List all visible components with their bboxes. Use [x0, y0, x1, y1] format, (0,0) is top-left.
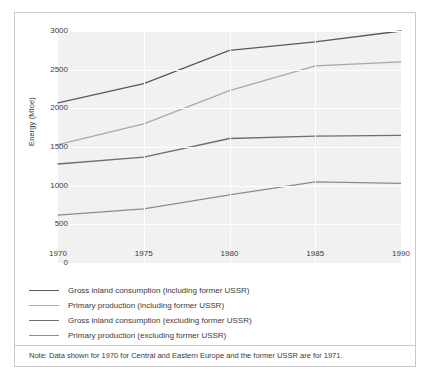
x-gridline: [144, 31, 145, 263]
chart-plot-region: Energy (Mtoe) 050010001500200025003000 1…: [15, 13, 415, 266]
x-gridline: [315, 31, 316, 263]
legend-item[interactable]: Primary production (excluding former USS…: [29, 328, 399, 343]
legend-label: Gross inland consumption (excluding form…: [68, 316, 252, 325]
x-tick-label: 1970: [38, 249, 78, 258]
y-gridline: [58, 263, 401, 264]
chart-note: Note: Data shown for 1970 for Central an…: [29, 351, 343, 360]
y-tick-label: 1000: [28, 181, 68, 190]
chart-figure: Energy (Mtoe) 050010001500200025003000 1…: [14, 12, 416, 367]
legend-line-swatch: [29, 335, 59, 336]
x-tick-label: 1990: [381, 249, 421, 258]
y-tick-label: 1500: [28, 142, 68, 151]
x-tick-label: 1985: [295, 249, 335, 258]
y-tick-label: 2000: [28, 103, 68, 112]
legend-line-swatch: [29, 305, 59, 306]
y-axis-title: Energy (Mtoe): [27, 62, 36, 182]
legend-label: Gross inland consumption (including form…: [68, 286, 249, 295]
legend-label: Primary production (including former USS…: [68, 301, 224, 310]
legend-item[interactable]: Gross inland consumption (excluding form…: [29, 313, 399, 328]
y-tick-label: 0: [28, 258, 68, 267]
legend-line-swatch: [29, 290, 59, 291]
plot-area: [58, 31, 401, 263]
y-tick-label: 500: [28, 219, 68, 228]
note-divider: [15, 345, 415, 346]
legend-label: Primary production (excluding former USS…: [68, 331, 226, 340]
chart-legend: Gross inland consumption (including form…: [29, 283, 399, 343]
legend-item[interactable]: Gross inland consumption (including form…: [29, 283, 399, 298]
legend-line-swatch: [29, 320, 59, 321]
x-tick-label: 1975: [124, 249, 164, 258]
y-tick-label: 2500: [28, 65, 68, 74]
x-gridline: [230, 31, 231, 263]
x-tick-label: 1980: [210, 249, 250, 258]
y-tick-label: 3000: [28, 26, 68, 35]
x-gridline: [401, 31, 402, 263]
legend-item[interactable]: Primary production (including former USS…: [29, 298, 399, 313]
